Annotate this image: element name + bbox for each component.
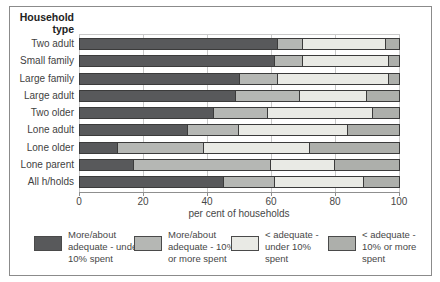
bar-segment — [275, 177, 364, 187]
bar-segment — [300, 91, 367, 101]
y-axis-title-line2: type — [10, 23, 74, 35]
bar-segment — [236, 91, 300, 101]
category-label: Small family — [10, 55, 74, 67]
bar-segment — [188, 125, 239, 135]
bar-segment — [239, 125, 347, 135]
bar-segment — [118, 143, 204, 153]
legend-label: More/aboutadequate - under10% spent — [68, 229, 140, 265]
legend-label: < adequate -under 10%spent — [265, 229, 319, 265]
bar-segment — [80, 143, 118, 153]
x-tick-label: 60 — [265, 196, 276, 207]
bar-segment — [80, 160, 134, 170]
legend-swatch — [134, 236, 162, 251]
bar-segment — [134, 160, 271, 170]
category-label: Two older — [10, 107, 74, 119]
x-tick-label: 80 — [329, 196, 340, 207]
bar-row — [79, 159, 400, 171]
bar-row — [79, 55, 400, 67]
bar-segment — [275, 56, 304, 66]
bar-segment — [240, 74, 278, 84]
legend-swatch — [328, 236, 356, 251]
x-axis-label: per cent of households — [79, 208, 399, 219]
bar-segment — [214, 108, 268, 118]
bar-segment — [303, 56, 389, 66]
bar-segment — [389, 74, 399, 84]
category-label: Lone older — [10, 142, 74, 154]
bar-segment — [278, 74, 390, 84]
bar-row — [79, 90, 400, 102]
bar-segment — [364, 177, 399, 187]
bar-row — [79, 142, 400, 154]
legend-swatch — [34, 236, 62, 251]
bar-segment — [80, 177, 224, 187]
bar-segment — [367, 91, 399, 101]
bar-row — [79, 38, 400, 50]
figure: Household type per cent of households 02… — [0, 0, 440, 282]
legend-item: More/aboutadequate - 10%or more spent — [134, 229, 235, 265]
bar-segment — [310, 143, 399, 153]
bar-segment — [80, 108, 214, 118]
bar-row — [79, 107, 400, 119]
bar-row — [79, 124, 400, 136]
bar-segment — [80, 39, 278, 49]
legend-item: More/aboutadequate - under10% spent — [34, 229, 140, 265]
bar-segment — [80, 91, 236, 101]
bar-segment — [373, 108, 399, 118]
legend-label: More/aboutadequate - 10%or more spent — [168, 229, 235, 265]
bar-segment — [204, 143, 309, 153]
category-label: Large family — [10, 73, 74, 85]
bar-row — [79, 73, 400, 85]
legend-swatch — [231, 236, 259, 251]
y-axis-title: Household type — [10, 11, 74, 35]
category-label: Lone parent — [10, 159, 74, 171]
bar-segment — [80, 56, 275, 66]
category-label: All h/holds — [10, 176, 74, 188]
bar-segment — [335, 160, 399, 170]
bar-segment — [268, 108, 373, 118]
bar-row — [79, 176, 400, 188]
x-tick-label: 40 — [201, 196, 212, 207]
category-label: Large adult — [10, 90, 74, 102]
legend-label: < adequate -10% or morespent — [362, 229, 416, 265]
bar-segment — [271, 160, 335, 170]
bar-segment — [278, 39, 304, 49]
bar-segment — [348, 125, 399, 135]
x-axis-line — [79, 192, 400, 193]
bar-segment — [303, 39, 386, 49]
plot-top-border — [79, 34, 400, 35]
legend-item: < adequate -10% or morespent — [328, 229, 416, 265]
bar-segment — [224, 177, 275, 187]
y-axis-title-line1: Household — [10, 11, 74, 23]
x-tick-label: 20 — [137, 196, 148, 207]
category-label: Two adult — [10, 38, 74, 50]
legend-item: < adequate -under 10%spent — [231, 229, 319, 265]
category-label: Lone adult — [10, 124, 74, 136]
bar-segment — [80, 74, 240, 84]
chart-frame: Household type per cent of households 02… — [9, 6, 432, 276]
x-tick-label: 0 — [76, 196, 82, 207]
bar-segment — [386, 39, 399, 49]
bar-segment — [389, 56, 399, 66]
x-tick-label: 100 — [391, 196, 408, 207]
bar-segment — [80, 125, 188, 135]
